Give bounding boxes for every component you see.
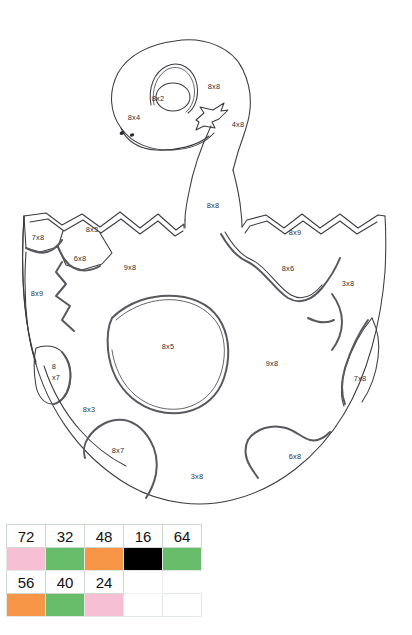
shell-bottom-right-blob-tail	[246, 440, 258, 478]
legend-number-cell: 48	[85, 525, 124, 548]
shell-left-flake-inner	[25, 252, 36, 364]
label-shell-centre: 8x5	[162, 342, 175, 351]
legend-swatch-pink	[85, 594, 124, 617]
legend-swatch-pink	[7, 548, 46, 571]
label-head-crown: 8x8	[208, 82, 221, 91]
head-outline	[112, 40, 251, 170]
label-shell-small-b: x7	[52, 373, 60, 382]
legend-swatch-empty	[124, 594, 163, 617]
mouth-beak-shape	[196, 103, 228, 130]
legend-number-cell: 16	[124, 525, 163, 548]
worksheet-page: 8x2 8x8 8x4 4x8 8x8 8x3 7x8 6x8 8x9 9x8 …	[0, 0, 412, 635]
legend-number-cell: 72	[7, 525, 46, 548]
shell-right-flake-crack-2	[308, 318, 334, 322]
legend-swatch-row-1	[7, 548, 202, 571]
legend-spacer-cell	[163, 594, 202, 617]
legend-number-row-2: 56 40 24	[7, 571, 202, 594]
nostril-icon-right	[129, 133, 134, 138]
label-shell-bot-mid: 3x8	[191, 472, 204, 481]
legend-number-row-1: 72 32 48 16 64	[7, 525, 202, 548]
shell-centre-blob-inner	[112, 300, 224, 410]
label-neck: 8x8	[207, 201, 220, 210]
label-shell-mid-right: 9x8	[266, 359, 279, 368]
dinosaur-neck-group	[185, 126, 242, 228]
shell-right-sliver-edge	[362, 318, 379, 402]
multiplication-labels-group: 8x2 8x8 8x4 4x8 8x8 8x3 7x8 6x8 8x9 9x8 …	[31, 82, 367, 481]
neck-right-edge	[233, 170, 242, 227]
legend-swatch-green	[46, 594, 85, 617]
label-shell-right-tab: 7x8	[354, 374, 367, 383]
legend-spacer-cell	[163, 571, 202, 594]
label-shell-bot-right: 6x8	[289, 452, 302, 461]
shell-rim-right-zigzag	[242, 214, 385, 228]
legend-swatch-row-2	[7, 594, 202, 617]
label-shell-low-left: 8x3	[83, 405, 96, 414]
legend-swatch-green	[46, 548, 85, 571]
legend-number-cell-empty	[124, 571, 163, 594]
eye-outer-ring	[150, 64, 197, 113]
legend-swatch-orange	[85, 548, 124, 571]
shell-bottom-left-blob	[88, 420, 157, 498]
shell-bottom-right-blob	[248, 427, 330, 441]
shell-left-zigzag-crack	[56, 262, 74, 331]
shell-bottom-left-blob-tail	[84, 438, 88, 458]
label-shell-top-left: 8x3	[86, 225, 99, 234]
shell-rim-right-crack-shadow	[225, 232, 322, 298]
legend-swatch-green	[163, 548, 202, 571]
legend-number-cell: 56	[7, 571, 46, 594]
dinosaur-eye-group	[150, 64, 197, 113]
legend-number-cell: 24	[85, 571, 124, 594]
shell-rim-right-crack	[221, 234, 340, 301]
shell-right-sliver-crack	[342, 320, 368, 404]
label-shell-far-left: 7x8	[32, 233, 45, 242]
legend-number-cell: 32	[46, 525, 85, 548]
dinosaur-head-group	[112, 40, 251, 170]
legend-number-cell: 64	[163, 525, 202, 548]
label-shell-body-left: 9x8	[124, 263, 137, 272]
label-shell-body-right: 8x6	[282, 264, 295, 273]
shell-rim-tooth-flake	[58, 233, 112, 270]
color-key-legend: 72 32 48 16 64 56 40 24	[6, 524, 202, 617]
shell-right-flake-crack	[332, 294, 342, 350]
label-shell-left-tooth: 6x8	[74, 254, 87, 263]
dinosaur-egg-artwork: 8x2 8x8 8x4 4x8 8x8 8x3 7x8 6x8 8x9 9x8 …	[0, 0, 412, 518]
legend-swatch-orange	[7, 594, 46, 617]
legend-number-cell: 40	[46, 571, 85, 594]
shell-rim-left-zigzag	[24, 212, 184, 230]
shell-centre-blob	[108, 296, 229, 414]
label-head-eye: 8x2	[152, 94, 165, 103]
label-shell-left-edge: 8x9	[31, 289, 44, 298]
label-shell-top-right: 8x9	[289, 228, 302, 237]
label-shell-right-edge: 3x8	[342, 279, 355, 288]
head-jaw-contour	[121, 128, 209, 150]
label-head-jaw: 4x8	[232, 120, 245, 129]
label-shell-small-a: 8	[52, 362, 56, 371]
label-head-cheek: 8x4	[128, 113, 141, 122]
legend-swatch-black	[124, 548, 163, 571]
label-shell-bot-left: 8x7	[112, 446, 125, 455]
